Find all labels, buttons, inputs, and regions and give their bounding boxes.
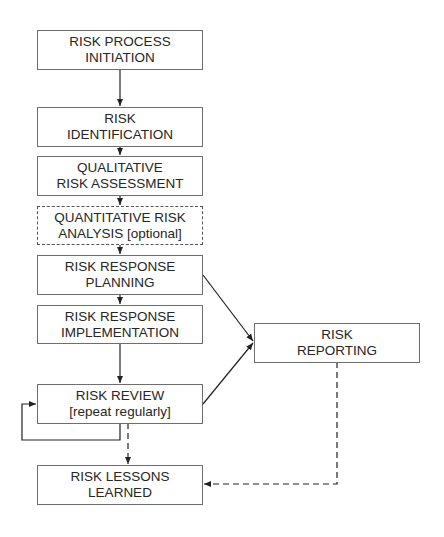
arrow-review-reporting [203,343,253,404]
node-risk-response-implementation: RISK RESPONSE IMPLEMENTATION [37,305,203,344]
node-label-line1: RISK REVIEW [76,388,165,404]
node-label-line1: RISK [321,327,353,343]
node-label-line1: QUALITATIVE [77,160,163,176]
node-label-line2: IDENTIFICATION [67,127,173,143]
node-label-line2: PLANNING [85,275,154,291]
node-risk-identification: RISK IDENTIFICATION [37,107,203,147]
node-risk-lessons-learned: RISK LESSONS LEARNED [37,465,203,505]
node-label-line2: ANALYSIS [optional] [58,226,182,242]
node-qualitative-risk-assessment: QUALITATIVE RISK ASSESSMENT [37,156,203,196]
node-label-line2: [repeat regularly] [69,404,170,420]
node-risk-process-initiation: RISK PROCESS INITIATION [37,30,203,70]
node-label-line2: LEARNED [88,485,152,501]
node-risk-response-planning: RISK RESPONSE PLANNING [37,255,203,295]
node-label-line2: REPORTING [297,343,377,359]
node-label-line1: RISK RESPONSE [65,259,175,275]
node-label-line1: RISK [104,111,136,127]
node-risk-review: RISK REVIEW [repeat regularly] [37,384,203,424]
node-label-line1: RISK PROCESS [69,34,170,50]
node-label-line2: INITIATION [85,50,155,66]
node-label-line1: QUANTITATIVE RISK [54,210,186,226]
dashed-arrow-reporting-lessons [204,362,337,484]
node-quantitative-risk-analysis: QUANTITATIVE RISK ANALYSIS [optional] [37,206,203,245]
arrow-planning-reporting [203,275,253,341]
node-label-line1: RISK RESPONSE [65,309,175,325]
node-label-line2: RISK ASSESSMENT [57,176,184,192]
node-risk-reporting: RISK REPORTING [254,323,420,363]
node-label-line2: IMPLEMENTATION [61,325,179,341]
node-label-line1: RISK LESSONS [70,469,169,485]
